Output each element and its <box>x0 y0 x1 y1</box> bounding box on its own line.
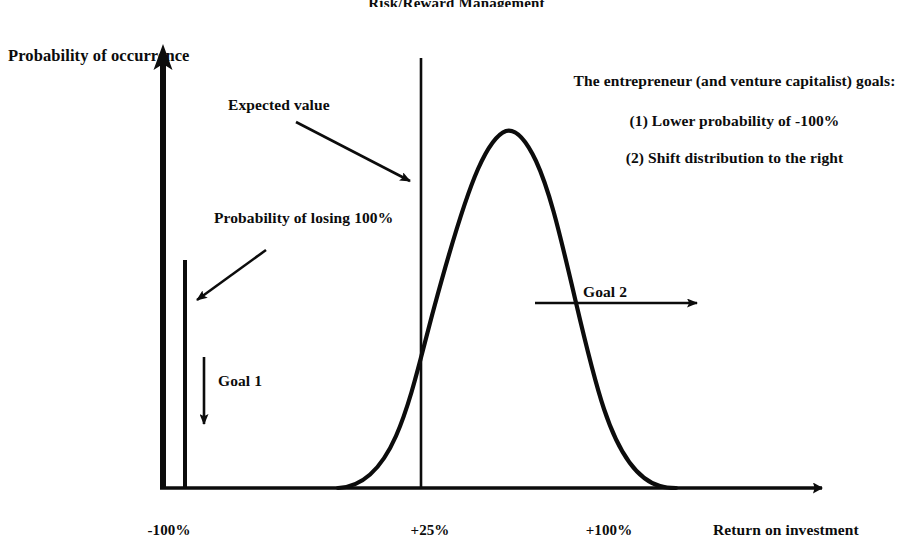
expected-value-arrow <box>296 122 410 181</box>
goals-callout: The entrepreneur (and venture capitalist… <box>556 70 913 186</box>
y-axis <box>154 44 173 488</box>
x-tick-label-pos-25: +25% <box>402 521 458 539</box>
goal-item-1: (1) Lower probability of -100% <box>556 112 913 131</box>
expected-value-annotation: Expected value <box>228 96 330 115</box>
x-axis-title: Return on investment <box>713 521 859 540</box>
x-tick-label-neg-100: -100% <box>140 521 198 539</box>
goal1-annotation: Goal 1 <box>218 372 262 391</box>
y-axis-title: Probability of occurrence <box>8 45 140 67</box>
goal2-annotation: Goal 2 <box>583 283 627 302</box>
goal-item-2: (2) Shift distribution to the right <box>556 149 913 168</box>
loss-probability-arrow <box>197 250 266 300</box>
x-tick-label-pos-100: +100% <box>579 521 639 539</box>
loss-probability-annotation: Probability of losing 100% <box>214 208 354 228</box>
goals-heading: The entrepreneur (and venture capitalist… <box>556 70 913 92</box>
